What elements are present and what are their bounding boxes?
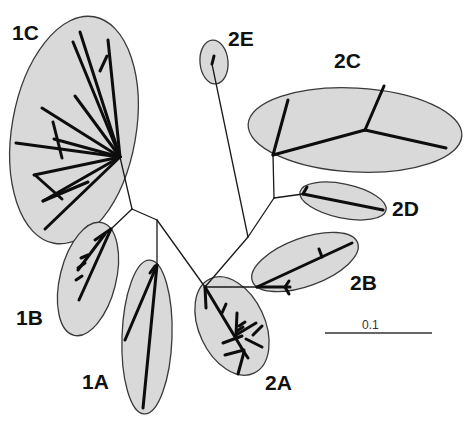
internal-branch <box>111 209 132 229</box>
internal-branch <box>273 155 274 198</box>
scale-bar-label: 0.1 <box>362 319 379 331</box>
clade-label-2e: 2E <box>228 28 254 49</box>
clade-label-1c: 1C <box>12 22 39 43</box>
clade-label-1a: 1A <box>82 371 109 392</box>
internal-branch <box>248 198 274 237</box>
clade-label-2d: 2D <box>392 198 419 219</box>
clade-ellipse-2b <box>244 220 366 303</box>
internal-branch <box>274 194 303 198</box>
clade-label-2c: 2C <box>334 50 361 71</box>
internal-branch <box>212 64 248 237</box>
clade-label-1b: 1B <box>16 307 43 328</box>
clade-label-2b: 2B <box>350 272 377 293</box>
terminal-branch <box>212 56 214 64</box>
phylogenetic-tree-figure: 1C1B1A2A2B2C2D2E 0.1 <box>0 0 470 427</box>
clade-label-2a: 2A <box>265 372 292 393</box>
internal-branch <box>132 209 157 220</box>
